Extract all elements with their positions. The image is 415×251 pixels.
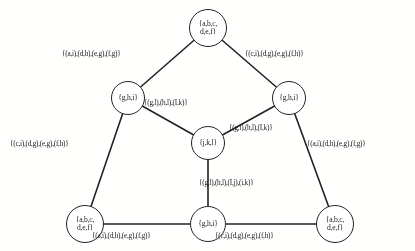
graph-node-top-label-line2: d,e,f} bbox=[200, 28, 216, 36]
graph-node-top[interactable]: {a,b,c, d,e,f} bbox=[189, 9, 227, 47]
edge-label-mid-right-to-center: {(g,l),(h,l),(I,k)} bbox=[229, 123, 272, 132]
edge-label-mid-left-to-center: {(g,l),(h,l),(I,k)} bbox=[144, 98, 187, 107]
graph-node-center-label: {j,k,l} bbox=[199, 139, 217, 147]
graph-node-mid-left-label: {g,h,i} bbox=[118, 94, 137, 102]
graph-node-bottom-center-label: {g,h,i} bbox=[198, 220, 217, 228]
edge-label-top-to-mid-right: {(c,i),(d,g),(e,g),(f,h)} bbox=[245, 49, 304, 58]
edge-label-top-to-mid-left: {(a,i),(d,h),(e,g),(f,g)} bbox=[62, 49, 121, 58]
graph-node-mid-right-label: {g,h,i} bbox=[279, 94, 298, 102]
edge-label-bottom-center-to-bottom-right: {(c,i),(d,g),(e,g),(f,h)} bbox=[215, 231, 274, 240]
edge-label-bottom-left-to-bottom-center: {(a,i),(d,h),(e,g),(f,g)} bbox=[92, 231, 151, 240]
graph-node-mid-right[interactable]: {g,h,i} bbox=[272, 81, 306, 115]
graph-node-mid-left[interactable]: {g,h,i} bbox=[111, 81, 145, 115]
graph-node-center[interactable]: {j,k,l} bbox=[191, 126, 225, 160]
edge-label-center-to-bottom-center: {(g,l),(h,l),(I,j),(i,k)} bbox=[199, 178, 253, 187]
edge-label-mid-left-to-bottom-left: {(c,i),(d,g),(e,g),(f,h)} bbox=[10, 139, 69, 148]
graph-node-bottom-right-label-line2: d,e,f} bbox=[327, 224, 343, 232]
graph-node-bottom-right[interactable]: {a,b,c, d,e,f} bbox=[316, 205, 354, 243]
edge-label-mid-right-to-bottom-right: {(a,i),(d,h),(e,g),(f,g)} bbox=[307, 139, 366, 148]
graph-node-bottom-left-label-line2: d,e,f} bbox=[77, 224, 93, 232]
edge-line-mid-left-to-bottom-left bbox=[85, 98, 128, 224]
graph-figure: {a,b,c, d,e,f} {g,h,i} {g,h,i} {j,k,l} {… bbox=[0, 0, 415, 251]
